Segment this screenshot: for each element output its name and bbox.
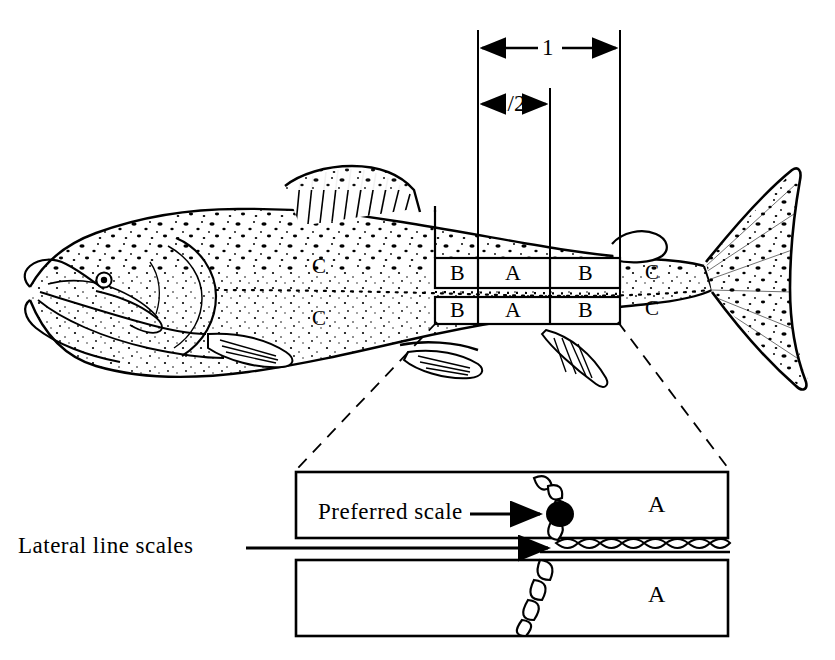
grid-cell-r1c1: A bbox=[505, 299, 521, 321]
grid-cell-r0c2: B bbox=[578, 262, 593, 284]
fish-illustration bbox=[20, 160, 820, 400]
preferred-scale-label: Preferred scale bbox=[318, 500, 463, 523]
body-region-lower-rear: C bbox=[645, 298, 659, 319]
dimension-full-label: 1 bbox=[542, 36, 554, 59]
body-region-lower-front: C bbox=[312, 308, 326, 329]
grid-cell-r0c0: B bbox=[450, 262, 465, 284]
detail-upper-label: A bbox=[648, 492, 665, 516]
body-region-upper-rear: C bbox=[645, 262, 659, 283]
grid-cell-r1c2: B bbox=[578, 299, 593, 321]
dimension-half-label: 1/2 bbox=[496, 92, 525, 115]
lateral-line-scale-row bbox=[556, 539, 730, 548]
lateral-line-scales-label: Lateral line scales bbox=[18, 534, 194, 557]
grid-cell-r1c0: B bbox=[450, 299, 465, 321]
figure-canvas: 1 1/2 B A B B A B C C C C A A Preferred … bbox=[0, 0, 835, 660]
body-region-upper-front: C bbox=[312, 256, 326, 277]
diagram-artwork bbox=[0, 0, 835, 660]
preferred-scale-marker bbox=[546, 501, 574, 527]
grid-cell-r0c1: A bbox=[505, 262, 521, 284]
detail-lower-label: A bbox=[648, 582, 665, 606]
